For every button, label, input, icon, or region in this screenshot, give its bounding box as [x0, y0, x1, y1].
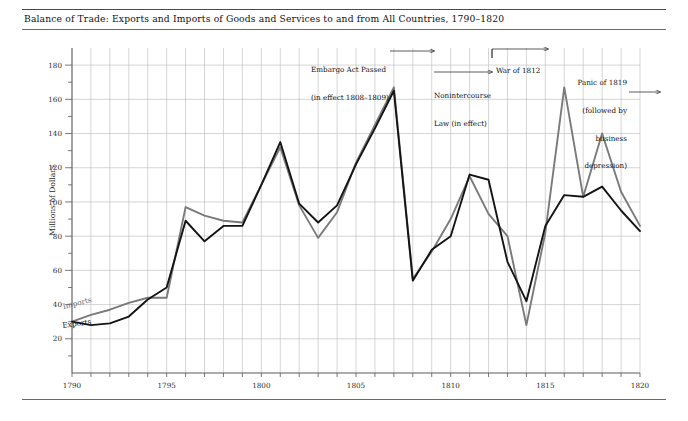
svg-text:20: 20	[53, 334, 63, 343]
svg-text:1820: 1820	[631, 381, 650, 390]
svg-text:180: 180	[48, 61, 62, 70]
annotation-nonintercourse-law: Nonintercourse Law (in effect)	[434, 73, 491, 147]
svg-text:80: 80	[53, 232, 63, 241]
annotation-panic-of-1819: Panic of 1819 (followed by business depr…	[565, 60, 627, 189]
svg-text:1810: 1810	[442, 381, 461, 390]
annotation-embargo-line2: (in effect 1808–1809)	[311, 93, 389, 102]
svg-text:60: 60	[53, 266, 63, 275]
annotation-nonintercourse-line1: Nonintercourse	[434, 91, 491, 100]
annotation-nonintercourse-line2: Law (in effect)	[434, 119, 491, 128]
svg-text:120: 120	[48, 163, 62, 172]
annotation-panic-line4: depression)	[565, 161, 627, 170]
bottom-rule	[22, 399, 666, 400]
svg-text:140: 140	[48, 129, 62, 138]
svg-text:160: 160	[48, 95, 62, 104]
svg-text:100: 100	[48, 198, 62, 207]
annotation-panic-line2: (followed by	[565, 106, 627, 115]
svg-text:1795: 1795	[158, 381, 177, 390]
annotation-embargo-line1: Embargo Act Passed	[311, 65, 389, 74]
svg-text:1800: 1800	[252, 381, 271, 390]
annotation-panic-line3: business	[565, 134, 627, 143]
annotation-panic-line1: Panic of 1819	[565, 78, 627, 87]
svg-text:1805: 1805	[347, 381, 366, 390]
chart-page: Balance of Trade: Exports and Imports of…	[0, 0, 688, 421]
svg-text:1815: 1815	[536, 381, 555, 390]
annotation-embargo-act: Embargo Act Passed (in effect 1808–1809)	[311, 47, 389, 121]
svg-text:1790: 1790	[63, 381, 82, 390]
annotation-war-line1: War of 1812	[496, 66, 540, 75]
annotation-war-of-1812: War of 1812	[496, 48, 540, 94]
